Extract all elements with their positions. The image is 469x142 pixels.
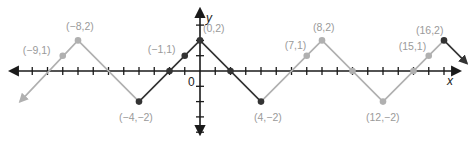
data-point (227, 68, 234, 75)
point-label: (8,2) (313, 21, 335, 33)
point-label: (−4,−2) (119, 111, 153, 123)
data-point (441, 37, 448, 44)
data-point (380, 98, 387, 105)
graph-segment (444, 40, 467, 63)
point-label: (15,1) (399, 40, 426, 52)
data-point (181, 52, 188, 59)
data-point (197, 37, 204, 44)
data-point (410, 68, 417, 75)
origin-label: 0 (188, 75, 195, 89)
point-label: (7,1) (285, 39, 307, 51)
point-label: (12,−2) (366, 111, 400, 123)
data-point (75, 37, 82, 44)
point-label: (4,−2) (254, 111, 282, 123)
x-axis (10, 67, 460, 75)
point-label: (−8,2) (66, 20, 94, 32)
data-point (319, 37, 326, 44)
data-point (136, 98, 143, 105)
point-label: (−1,1) (148, 43, 176, 55)
point-label: (16,2) (416, 24, 443, 36)
data-point (425, 52, 432, 59)
data-point (303, 52, 310, 59)
periodic-graph: (−9,1)(−8,2)(−4,−2)(−1,1)(0,2)(4,−2)(7,1… (0, 0, 469, 142)
data-point (258, 98, 265, 105)
x-axis-label: x (446, 74, 454, 88)
data-point (166, 68, 173, 75)
data-point (59, 52, 66, 59)
data-point (349, 68, 356, 75)
point-label: (−9,1) (23, 44, 51, 56)
y-axis-label: y (205, 11, 213, 25)
